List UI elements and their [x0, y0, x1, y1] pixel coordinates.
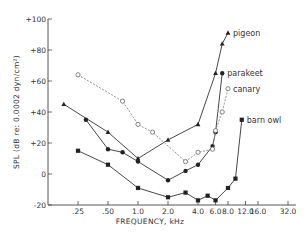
y-tick-label: -20: [34, 201, 46, 210]
x-tick-label: 2.0: [162, 207, 174, 216]
y-tick-label: +40: [30, 108, 46, 117]
y-tick-label: +20: [30, 139, 46, 148]
data-point-open-circle: [220, 110, 224, 114]
x-tick-label: 32.0: [280, 207, 297, 216]
data-point-filled-circle: [84, 118, 88, 122]
data-point-open-circle: [150, 130, 154, 134]
data-point-filled-square: [213, 198, 217, 202]
axes: [48, 19, 296, 205]
x-tick-label: .50: [102, 207, 114, 216]
series-label: pigeon: [233, 29, 260, 38]
data-point-filled-circle: [183, 169, 187, 173]
data-point-open-circle: [136, 122, 140, 126]
data-point-filled-circle: [166, 178, 170, 182]
x-tick-label: .25: [72, 207, 84, 216]
data-point-filled-square: [183, 191, 187, 195]
series-group: pigeonparakeetcanarybarn owl: [61, 29, 281, 203]
series-label: barn owl: [247, 116, 281, 125]
data-point-filled-square: [226, 186, 230, 190]
audiogram-chart: -200+20+40+60+80+100 .25.501.02.04.06.08…: [0, 0, 307, 235]
data-point-open-circle: [196, 150, 200, 154]
data-point-filled-square: [106, 163, 110, 167]
data-point-filled-square: [196, 198, 200, 202]
data-point-filled-triangle: [61, 102, 66, 106]
x-axis-title: FREQUENCY, kHz: [116, 217, 185, 226]
series-label: parakeet: [227, 69, 263, 78]
series-pigeon: pigeon: [61, 29, 260, 160]
data-point-filled-square: [240, 118, 244, 122]
data-point-filled-circle: [136, 159, 140, 163]
y-tick-label: +80: [30, 46, 46, 55]
data-point-filled-square: [166, 195, 170, 199]
y-tick-label: +60: [30, 77, 46, 86]
y-tick-label: +100: [25, 15, 46, 24]
data-point-filled-triangle: [196, 122, 201, 126]
y-axis-title: SPL (dB re: 0.0002 dyn/cm²): [12, 55, 21, 169]
data-point-open-circle: [76, 73, 80, 77]
x-tick-label: 4.0: [192, 207, 204, 216]
data-point-filled-triangle: [213, 71, 218, 75]
series-label: canary: [233, 85, 261, 94]
x-tick-label: 16.0: [250, 207, 267, 216]
x-ticks: .25.501.02.04.06.08.012.016.032.0: [72, 201, 297, 216]
data-point-open-circle: [120, 99, 124, 103]
data-point-filled-triangle: [226, 30, 231, 34]
data-point-filled-square: [233, 177, 237, 181]
y-tick-label: 0: [41, 170, 46, 179]
series-line: [78, 75, 228, 162]
data-point-filled-square: [136, 186, 140, 190]
data-point-filled-square: [206, 194, 210, 198]
chart-svg: -200+20+40+60+80+100 .25.501.02.04.06.08…: [0, 0, 307, 235]
data-point-filled-triangle: [106, 130, 111, 134]
series-canary: canary: [76, 73, 261, 164]
x-tick-label: 8.0: [222, 207, 234, 216]
data-point-filled-square: [76, 149, 80, 153]
data-point-filled-circle: [196, 163, 200, 167]
series-line: [64, 33, 228, 159]
data-point-filled-circle: [106, 147, 110, 151]
data-point-open-circle: [213, 129, 217, 133]
x-tick-label: 1.0: [132, 207, 144, 216]
data-point-filled-circle: [220, 71, 224, 75]
series-barn-owl: barn owl: [76, 116, 281, 203]
data-point-filled-triangle: [220, 41, 225, 45]
x-tick-label: 6.0: [210, 207, 222, 216]
data-point-open-circle: [210, 147, 214, 151]
data-point-filled-circle: [120, 150, 124, 154]
data-point-open-circle: [183, 160, 187, 164]
data-point-open-circle: [226, 87, 230, 91]
